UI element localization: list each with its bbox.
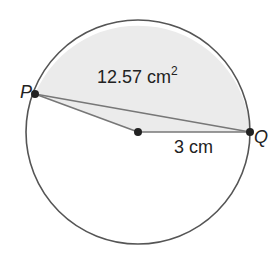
radius-label: 3 cm bbox=[174, 137, 213, 157]
area-label: 12.57 cm2 bbox=[97, 64, 178, 87]
point-p-label: P bbox=[20, 82, 32, 102]
area-exponent: 2 bbox=[171, 64, 178, 78]
point-p-dot bbox=[31, 90, 39, 98]
center-dot bbox=[134, 128, 142, 136]
point-q-label: Q bbox=[254, 127, 268, 147]
point-q-dot bbox=[246, 128, 254, 136]
circle-diagram: P Q 12.57 cm2 3 cm bbox=[0, 0, 274, 257]
area-value: 12.57 cm bbox=[97, 67, 171, 87]
